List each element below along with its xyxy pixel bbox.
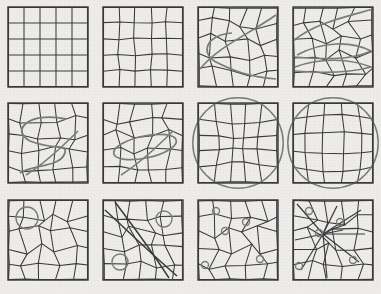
figure-root [0, 0, 381, 294]
distortion-panel-array [0, 0, 381, 294]
